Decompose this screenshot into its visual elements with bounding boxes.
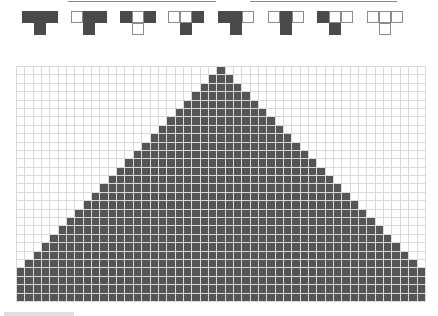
grid-cell bbox=[309, 201, 316, 208]
grid-cell bbox=[384, 109, 391, 116]
grid-cell bbox=[392, 210, 399, 217]
grid-cell bbox=[259, 134, 266, 141]
grid-cell bbox=[176, 75, 183, 82]
grid-cell bbox=[401, 226, 408, 233]
grid-cell bbox=[109, 134, 116, 141]
grid-cell bbox=[209, 101, 216, 108]
grid-cell bbox=[167, 159, 174, 166]
grid-cell bbox=[34, 151, 41, 158]
grid-cell bbox=[142, 218, 149, 225]
grid-cell bbox=[301, 226, 308, 233]
grid-cell bbox=[351, 184, 358, 191]
grid-cell bbox=[351, 151, 358, 158]
grid-cell bbox=[151, 92, 158, 99]
grid-cell bbox=[367, 126, 374, 133]
grid-cell bbox=[201, 168, 208, 175]
grid-cell bbox=[409, 184, 416, 191]
grid-cell bbox=[384, 184, 391, 191]
grid-cell bbox=[50, 101, 57, 108]
grid-cell bbox=[167, 252, 174, 259]
grid-cell bbox=[351, 159, 358, 166]
grid-cell bbox=[284, 101, 291, 108]
grid-cell bbox=[92, 201, 99, 208]
grid-cell bbox=[376, 210, 383, 217]
grid-cell bbox=[109, 285, 116, 292]
grid-cell bbox=[109, 101, 116, 108]
grid-cell bbox=[84, 109, 91, 116]
grid-cell bbox=[34, 168, 41, 175]
grid-cell bbox=[201, 285, 208, 292]
grid-cell bbox=[84, 226, 91, 233]
grid-cell bbox=[34, 243, 41, 250]
grid-cell bbox=[259, 277, 266, 284]
grid-cell bbox=[109, 176, 116, 183]
rule-result-cell bbox=[132, 23, 144, 35]
grid-cell bbox=[184, 109, 191, 116]
grid-cell bbox=[409, 260, 416, 267]
grid-cell bbox=[209, 75, 216, 82]
grid-cell bbox=[351, 235, 358, 242]
grid-cell bbox=[284, 176, 291, 183]
grid-cell bbox=[50, 159, 57, 166]
grid-cell bbox=[92, 84, 99, 91]
rule-neighbor-cell bbox=[22, 11, 34, 23]
grid-cell bbox=[184, 243, 191, 250]
grid-cell bbox=[59, 193, 66, 200]
grid-cell bbox=[292, 294, 299, 301]
grid-cell bbox=[401, 168, 408, 175]
grid-cell bbox=[418, 92, 425, 99]
grid-cell bbox=[317, 243, 324, 250]
grid-cell bbox=[418, 252, 425, 259]
grid-cell bbox=[409, 168, 416, 175]
grid-cell bbox=[84, 235, 91, 242]
rule-neighbor-cell bbox=[95, 11, 107, 23]
grid-cell bbox=[217, 285, 224, 292]
grid-cell bbox=[392, 226, 399, 233]
grid-cell bbox=[42, 268, 49, 275]
top-bracket-line-right bbox=[250, 1, 397, 2]
grid-cell bbox=[34, 294, 41, 301]
grid-cell bbox=[367, 201, 374, 208]
grid-cell bbox=[142, 151, 149, 158]
grid-cell bbox=[367, 277, 374, 284]
grid-cell bbox=[84, 176, 91, 183]
grid-cell bbox=[259, 226, 266, 233]
grid-cell bbox=[142, 268, 149, 275]
grid-cell bbox=[125, 168, 132, 175]
grid-cell bbox=[392, 294, 399, 301]
grid-cell bbox=[309, 243, 316, 250]
grid-cell bbox=[201, 260, 208, 267]
grid-cell bbox=[267, 226, 274, 233]
grid-cell bbox=[59, 268, 66, 275]
grid-cell bbox=[409, 159, 416, 166]
grid-cell bbox=[342, 184, 349, 191]
grid-cell bbox=[326, 84, 333, 91]
grid-cell bbox=[392, 268, 399, 275]
grid-cell bbox=[384, 294, 391, 301]
grid-cell bbox=[342, 84, 349, 91]
grid-cell bbox=[292, 67, 299, 74]
grid-cell bbox=[234, 260, 241, 267]
grid-cell bbox=[151, 134, 158, 141]
grid-cell bbox=[167, 84, 174, 91]
grid-cell bbox=[342, 226, 349, 233]
grid-cell bbox=[384, 134, 391, 141]
grid-cell bbox=[151, 260, 158, 267]
grid-cell bbox=[267, 210, 274, 217]
grid-cell bbox=[267, 117, 274, 124]
grid-cell bbox=[367, 134, 374, 141]
grid-cell bbox=[34, 285, 41, 292]
grid-cell bbox=[276, 117, 283, 124]
grid-cell bbox=[59, 226, 66, 233]
grid-cell bbox=[84, 92, 91, 99]
grid-cell bbox=[309, 126, 316, 133]
grid-cell bbox=[292, 277, 299, 284]
grid-cell bbox=[259, 67, 266, 74]
grid-cell bbox=[201, 151, 208, 158]
grid-cell bbox=[334, 226, 341, 233]
grid-cell bbox=[392, 117, 399, 124]
grid-cell bbox=[92, 243, 99, 250]
grid-cell bbox=[234, 92, 241, 99]
grid-cell bbox=[267, 294, 274, 301]
grid-cell bbox=[226, 176, 233, 183]
